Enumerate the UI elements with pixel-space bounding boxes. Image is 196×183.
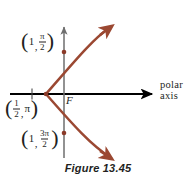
polar-axis-label-line2: axis	[160, 90, 183, 101]
left-paren: (	[21, 130, 28, 146]
polar-axis-label-line1: polar	[160, 79, 183, 90]
curve-point-markers	[44, 50, 67, 136]
point-top-theta-fraction: π 2	[39, 32, 47, 52]
point-vertex-r-denominator: 2	[13, 108, 20, 119]
point-bottom-theta-fraction: 3π 2	[39, 129, 51, 149]
point-vertex-r-fraction: 1 2	[13, 99, 21, 119]
figure-caption: Figure 13.45	[0, 162, 196, 174]
point-label-bottom: ( 1, 3π 2 )	[21, 128, 58, 148]
left-paren: (	[21, 33, 28, 49]
curve-arrow-upper	[100, 26, 112, 35]
point-vertex-comma: ,	[20, 108, 24, 119]
point-label-top: ( 1, π 2 )	[21, 31, 54, 51]
right-paren: )	[47, 33, 54, 49]
point-vertex-theta: π	[25, 103, 31, 114]
point-top-theta-denominator: 2	[39, 41, 46, 52]
point-vertex-r-numerator: 1	[13, 99, 20, 109]
curve-arrow-lower	[100, 151, 112, 159]
point-bottom-theta-denominator: 2	[41, 138, 48, 149]
point-top-theta-numerator: π	[39, 32, 46, 42]
point-marker-vertex	[44, 92, 49, 97]
polar-axis-label: polar axis	[160, 79, 183, 101]
focus-label: F	[66, 95, 73, 106]
left-paren: (	[5, 100, 12, 116]
point-marker-bottom	[62, 131, 67, 136]
point-marker-top	[62, 50, 67, 55]
point-bottom-theta-numerator: 3π	[39, 129, 50, 139]
right-paren: )	[31, 100, 38, 116]
point-label-vertex: ( 1 2 , π )	[5, 98, 38, 118]
figure-container: ( 1, π 2 ) ( 1 2 , π )	[0, 0, 196, 183]
right-paren: )	[51, 130, 58, 146]
